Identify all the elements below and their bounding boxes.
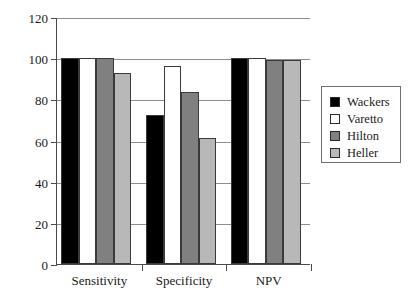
legend-label: Varetto <box>347 113 383 126</box>
bar <box>283 60 301 264</box>
y-tick-mark <box>51 265 57 266</box>
x-group-label: Specificity <box>156 274 212 287</box>
bar <box>199 138 217 264</box>
bar-chart: 020406080100120 SensitivitySpecificityNP… <box>0 0 412 303</box>
y-tick-label: 60 <box>35 135 48 148</box>
x-tick-mark <box>311 264 312 271</box>
y-tick-label: 0 <box>42 259 49 272</box>
legend-swatch-icon <box>330 114 340 124</box>
bar <box>146 115 164 264</box>
bar <box>114 73 132 264</box>
bar <box>164 66 182 264</box>
x-tick-mark <box>226 264 227 271</box>
bar <box>181 92 199 264</box>
x-group-label: Sensitivity <box>72 274 128 287</box>
x-group-label: NPV <box>256 274 282 287</box>
bar <box>96 58 114 264</box>
legend-item: Varetto <box>330 111 400 127</box>
legend-swatch-icon <box>330 131 340 141</box>
legend-item: Heller <box>330 145 400 161</box>
chart-legend: WackersVarettoHiltonHeller <box>321 86 401 163</box>
y-tick-label: 40 <box>35 176 48 189</box>
legend-swatch-icon <box>330 97 340 107</box>
y-tick-label: 120 <box>29 12 49 25</box>
legend-label: Hilton <box>347 130 379 143</box>
plot-area: 020406080100120 SensitivitySpecificityNP… <box>56 18 310 265</box>
bar <box>266 60 284 264</box>
bar <box>79 58 97 264</box>
y-tick-label: 20 <box>35 217 48 230</box>
bars-layer <box>57 18 310 264</box>
y-tick-label: 80 <box>35 94 48 107</box>
legend-label: Heller <box>347 147 378 160</box>
x-tick-mark <box>142 264 143 271</box>
legend-item: Wackers <box>330 94 400 110</box>
y-tick-label: 100 <box>29 53 49 66</box>
bar <box>231 58 249 264</box>
bar <box>61 58 79 264</box>
bar <box>248 58 266 264</box>
legend-item: Hilton <box>330 128 400 144</box>
legend-swatch-icon <box>330 148 340 158</box>
legend-label: Wackers <box>347 96 390 109</box>
